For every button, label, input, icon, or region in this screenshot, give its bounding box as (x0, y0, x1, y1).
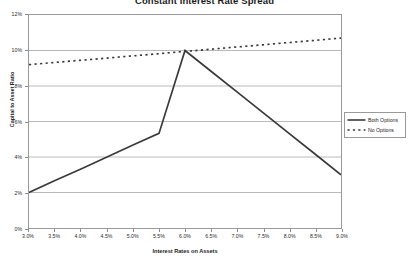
chart-title: Constant Interest Rate Spread (0, 0, 409, 7)
x-tick-label: 7.0% (231, 233, 243, 240)
x-tick-label: 6.5% (205, 233, 217, 240)
legend-item-both-options[interactable]: Both Options (347, 115, 403, 125)
x-tick-mark (211, 229, 212, 232)
x-tick-label: 8.0% (284, 233, 296, 240)
y-tick-label: 8% (15, 83, 23, 89)
x-tick-label: 5.0% (127, 233, 139, 240)
x-tick-mark (159, 229, 160, 232)
chart-legend: Both Options No Options (344, 112, 406, 138)
y-axis-tick-labels: 0%2%4%6%8%10%12% (0, 14, 25, 229)
x-tick-label: 6.0% (179, 233, 191, 240)
x-tick-label: 7.5% (258, 233, 270, 240)
legend-label: No Options (368, 126, 394, 134)
x-axis-tick-labels: 3.0%3.5%4.0%4.5%5.0%5.5%6.0%6.5%7.0%7.5%… (28, 233, 342, 243)
x-tick-mark (185, 229, 186, 232)
x-tick-label: 8.5% (310, 233, 322, 240)
x-tick-mark (237, 229, 238, 232)
x-tick-mark (54, 229, 55, 232)
plot-area (28, 14, 342, 229)
x-tick-mark (107, 229, 108, 232)
x-tick-mark (28, 229, 29, 232)
x-tick-label: 4.0% (74, 233, 86, 240)
series-line-both-options (29, 50, 341, 192)
x-tick-mark (133, 229, 134, 232)
x-tick-label: 3.5% (48, 233, 60, 240)
x-tick-mark (342, 229, 343, 232)
legend-solid-line-icon (347, 116, 366, 124)
legend-item-no-options[interactable]: No Options (347, 125, 403, 135)
y-tick-label: 10% (12, 47, 22, 53)
series-line-no-options (29, 38, 341, 65)
x-tick-label: 4.5% (101, 233, 113, 240)
x-axis-title: Interest Rates on Assets (28, 247, 342, 255)
legend-dotted-line-icon (347, 126, 366, 134)
x-tick-label: 9.0% (336, 233, 348, 240)
x-tick-label: 3.0% (22, 233, 34, 240)
x-tick-mark (316, 229, 317, 232)
y-tick-label: 4% (15, 154, 23, 160)
y-tick-label: 0% (15, 226, 23, 232)
legend-label: Both Options (368, 116, 398, 124)
chart-container: Constant Interest Rate Spread Capital to… (0, 0, 409, 262)
x-tick-mark (264, 229, 265, 232)
y-tick-label: 2% (15, 190, 23, 196)
y-tick-label: 12% (12, 11, 22, 17)
x-tick-label: 5.5% (153, 233, 165, 240)
x-tick-mark (290, 229, 291, 232)
y-tick-label: 6% (15, 119, 23, 125)
data-series-layer (29, 15, 341, 228)
x-tick-mark (80, 229, 81, 232)
